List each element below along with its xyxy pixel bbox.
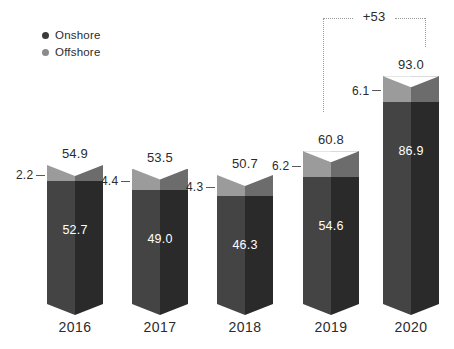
- bar-group-2019[interactable]: 54.6: [303, 151, 359, 304]
- bar-tip-left: [47, 304, 75, 315]
- bar-segment-onshore-2016[interactable]: 52.7: [47, 181, 103, 304]
- bracket-line-right: [395, 18, 425, 19]
- bar-value-offshore-2017: 4.4: [101, 174, 118, 188]
- bar-tip-left: [383, 304, 411, 315]
- bar-segment-offshore-2016[interactable]: [47, 165, 103, 181]
- bar-group-2018[interactable]: 46.3: [217, 175, 273, 304]
- growth-label: +53: [359, 9, 389, 24]
- bar-bottom-tip: [217, 304, 273, 315]
- offshore-callout-2016: 2.2: [16, 168, 45, 182]
- offshore-callout-2017: 4.4: [101, 174, 130, 188]
- bar-value-offshore-2016: 2.2: [16, 168, 33, 182]
- growth-bracket: +53: [0, 0, 454, 160]
- bar-tip-right: [331, 304, 359, 315]
- x-axis-label-2020: 2020: [383, 319, 439, 335]
- bar-2016[interactable]: 52.7: [47, 165, 103, 304]
- offshore-callout-2019: 6.2: [272, 159, 301, 173]
- bar-2017[interactable]: 49.0: [132, 169, 188, 304]
- bar-face-left: [47, 181, 75, 304]
- bracket-drop-right: [425, 18, 426, 47]
- bar-face-right: [75, 181, 103, 304]
- bar-segment-offshore-2018[interactable]: [217, 175, 273, 196]
- bar-2019[interactable]: 54.6: [303, 151, 359, 304]
- bar-face-left: [303, 177, 331, 304]
- bar-tip-left: [132, 304, 160, 315]
- leader-line: [206, 187, 215, 188]
- bar-segment-onshore-2019[interactable]: 54.6: [303, 177, 359, 304]
- bar-bottom-tip: [383, 304, 439, 315]
- bar-tip-right: [411, 304, 439, 315]
- bar-value-onshore-2019: 54.6: [303, 219, 359, 233]
- bar-group-2017[interactable]: 49.0: [132, 169, 188, 304]
- leader-line: [292, 166, 301, 167]
- bar-segment-onshore-2018[interactable]: 46.3: [217, 196, 273, 304]
- bar-value-onshore-2018: 46.3: [217, 238, 273, 252]
- bar-tip-left: [303, 304, 331, 315]
- bar-face-right: [331, 177, 359, 304]
- bar-2018[interactable]: 46.3: [217, 175, 273, 304]
- bar-bottom-tip: [132, 304, 188, 315]
- chart-root: Onshore Offshore 52.754.92.2201649.053.5…: [0, 0, 454, 349]
- bracket-drop-left: [323, 18, 324, 112]
- bracket-line-left: [323, 18, 353, 19]
- x-axis-label-2017: 2017: [132, 319, 188, 335]
- bar-tip-right: [160, 304, 188, 315]
- bar-tip-right: [75, 304, 103, 315]
- x-axis-label-2018: 2018: [217, 319, 273, 335]
- x-axis-label-2019: 2019: [303, 319, 359, 335]
- bar-segment-onshore-2017[interactable]: 49.0: [132, 190, 188, 304]
- bar-value-offshore-2018: 4.3: [186, 180, 203, 194]
- bar-value-offshore-2019: 6.2: [272, 159, 289, 173]
- leader-line: [36, 175, 45, 176]
- offshore-callout-2018: 4.3: [186, 180, 215, 194]
- bar-bottom-tip: [47, 304, 103, 315]
- bar-face-left: [132, 190, 160, 304]
- bar-segment-offshore-2017[interactable]: [132, 169, 188, 190]
- bar-tip-left: [217, 304, 245, 315]
- bar-bottom-tip: [303, 304, 359, 315]
- leader-line: [121, 181, 130, 182]
- bar-face-right: [160, 190, 188, 304]
- bar-tip-right: [245, 304, 273, 315]
- bar-value-onshore-2016: 52.7: [47, 223, 103, 237]
- x-axis-label-2016: 2016: [47, 319, 103, 335]
- bar-value-onshore-2017: 49.0: [132, 232, 188, 246]
- bar-group-2016[interactable]: 52.7: [47, 165, 103, 304]
